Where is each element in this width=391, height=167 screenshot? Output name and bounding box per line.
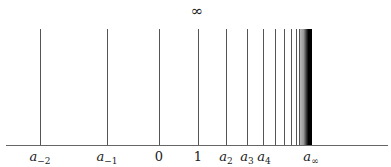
number-line-axis (6, 145, 388, 146)
line-a8 (296, 29, 297, 146)
label-a4: a4 (257, 149, 271, 166)
label-a2: a2 (219, 149, 233, 166)
infinity-label: ∞ (191, 2, 204, 20)
line-a6 (284, 29, 285, 146)
line-a-minus-2 (40, 29, 41, 146)
label-a-infinity: a∞ (303, 149, 318, 166)
line-a3 (247, 29, 248, 146)
line-a7 (291, 29, 292, 146)
accumulation-band (300, 29, 312, 146)
label-a-minus-2: a−2 (29, 149, 50, 166)
label-a-minus-1: a−1 (96, 149, 117, 166)
line-a5 (275, 29, 276, 146)
line-a4 (263, 29, 264, 146)
label-a3: a3 (240, 149, 254, 166)
line-one (198, 29, 199, 146)
accumulation-diagram: ∞ a−2 a−1 0 1 a2 a3 a4 a∞ (0, 0, 391, 167)
line-a-minus-1 (107, 29, 108, 146)
label-one: 1 (194, 149, 202, 164)
label-zero: 0 (155, 149, 163, 164)
line-zero (159, 29, 160, 146)
line-a2 (226, 29, 227, 146)
